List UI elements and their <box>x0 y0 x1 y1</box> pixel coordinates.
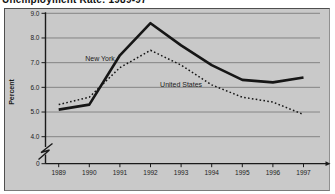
y-tick-label: 5.0 <box>30 108 39 115</box>
y-tick-label: 6.0 <box>30 84 39 91</box>
x-tick-label: 1991 <box>113 169 128 176</box>
series-inline-label-new-york: New York <box>85 55 115 62</box>
x-tick-label: 1990 <box>82 169 97 176</box>
y-tick-label: 9.0 <box>30 10 39 17</box>
x-tick-label: 1989 <box>51 169 66 176</box>
y-origin-label: 0 <box>36 160 40 167</box>
x-tick-label: 1995 <box>235 169 250 176</box>
y-tick-label: 4.0 <box>30 133 39 140</box>
unemployment-line-chart: 9.08.07.06.05.04.00198919901991199219931… <box>0 0 335 194</box>
y-tick-label: 7.0 <box>30 59 39 66</box>
x-tick-label: 1994 <box>204 169 219 176</box>
screenshot-root: Unemployment Rate: 1989-97 9.08.07.06.05… <box>0 0 335 194</box>
x-tick-label: 1992 <box>143 169 158 176</box>
y-axis-title: Percent <box>8 78 15 104</box>
x-tick-label: 1996 <box>266 169 281 176</box>
series-line-new-york <box>59 23 304 109</box>
series-inline-label-united-states: United States <box>160 81 203 88</box>
x-tick-label: 1993 <box>174 169 189 176</box>
y-tick-label: 8.0 <box>30 34 39 41</box>
x-tick-label: 1997 <box>296 169 311 176</box>
x-axis-arrow-icon <box>326 161 331 166</box>
